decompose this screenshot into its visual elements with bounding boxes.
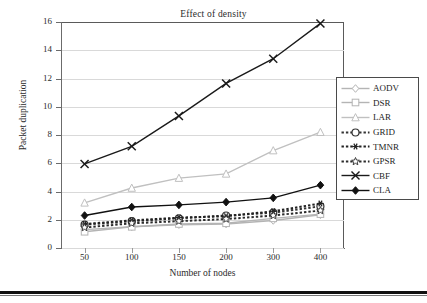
data-point-cross-x <box>175 112 183 120</box>
legend-label: AODV <box>371 83 399 93</box>
series-cbf <box>81 19 325 168</box>
legend-item-cla[interactable]: CLA <box>340 183 416 198</box>
legend-label: DSR <box>371 98 391 108</box>
chart-legend[interactable]: AODVDSRLARGRIDTMNRGPSRCBFCLA <box>336 77 419 200</box>
legend-item-lar[interactable]: LAR <box>340 110 416 125</box>
data-point-asterisk <box>352 144 359 150</box>
legend-marker-cross-x <box>340 169 371 182</box>
data-point-cross-x <box>316 19 324 27</box>
data-point-cross-x <box>81 160 89 168</box>
legend-marker-open-diamond <box>340 82 371 95</box>
legend-label: CLA <box>371 185 391 195</box>
legend-marker-open-circle <box>340 126 371 139</box>
legend-label: GRID <box>371 127 395 137</box>
data-point-cross-x <box>128 142 136 150</box>
legend-marker-filled-diamond <box>340 184 371 197</box>
legend-marker-open-star <box>340 155 371 168</box>
data-point-open-circle <box>352 129 359 136</box>
data-point-filled-diamond <box>128 203 135 211</box>
figure-container: Effect of density 0246810121416 50100150… <box>0 0 427 303</box>
data-point-filled-diamond <box>352 187 359 195</box>
legend-item-tmnr[interactable]: TMNR <box>340 139 416 154</box>
data-point-filled-diamond <box>270 194 277 202</box>
bottom-divider-thin <box>0 295 427 296</box>
legend-label: CBF <box>371 171 390 181</box>
data-point-cross-x <box>222 79 230 87</box>
legend-label: GPSR <box>371 156 396 166</box>
legend-item-grid[interactable]: GRID <box>340 125 416 140</box>
data-point-open-square <box>352 100 359 107</box>
data-point-open-star <box>352 157 360 164</box>
data-point-open-triangle <box>317 128 324 135</box>
legend-item-cbf[interactable]: CBF <box>340 169 416 184</box>
legend-marker-open-triangle <box>340 111 371 124</box>
legend-marker-asterisk <box>340 140 371 153</box>
legend-marker-open-square <box>340 96 371 109</box>
legend-item-aodv[interactable]: AODV <box>340 81 416 96</box>
data-point-filled-diamond <box>223 198 230 206</box>
data-point-cross-x <box>269 55 277 63</box>
data-point-filled-diamond <box>317 181 324 189</box>
data-point-open-diamond <box>352 84 359 92</box>
data-point-filled-diamond <box>176 201 183 209</box>
legend-item-gpsr[interactable]: GPSR <box>340 154 416 169</box>
legend-label: TMNR <box>371 142 399 152</box>
legend-label: LAR <box>371 112 391 122</box>
legend-item-dsr[interactable]: DSR <box>340 96 416 111</box>
data-point-filled-diamond <box>81 212 88 220</box>
